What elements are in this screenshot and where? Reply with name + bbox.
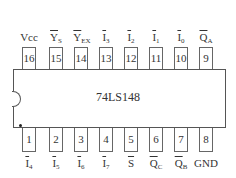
pin-12: 12 (124, 47, 138, 69)
pin-2: 2 (49, 128, 63, 152)
pin-label-vcc: Vcc (14, 31, 44, 43)
pin-5: 5 (124, 128, 138, 152)
pin-13: 13 (99, 47, 113, 69)
pin-4: 4 (99, 128, 113, 152)
pin-6: 6 (149, 128, 163, 152)
chip-name: 74LS148 (0, 90, 236, 105)
pin-label-gnd: GND (191, 157, 221, 169)
pin-15: 15 (49, 47, 63, 69)
pin-14: 14 (74, 47, 88, 69)
pin-8: 8 (199, 128, 213, 152)
pin-label-qa: QA (191, 31, 221, 45)
pin1-marker-dot (19, 124, 22, 127)
pin-10: 10 (174, 47, 188, 69)
pin-9: 9 (199, 47, 213, 69)
pin-16: 16 (22, 47, 36, 69)
pin-11: 11 (149, 47, 163, 69)
pin-label-i4: I4 (14, 157, 44, 171)
pin-1: 1 (22, 128, 36, 152)
pin-3: 3 (74, 128, 88, 152)
pin-7: 7 (174, 128, 188, 152)
